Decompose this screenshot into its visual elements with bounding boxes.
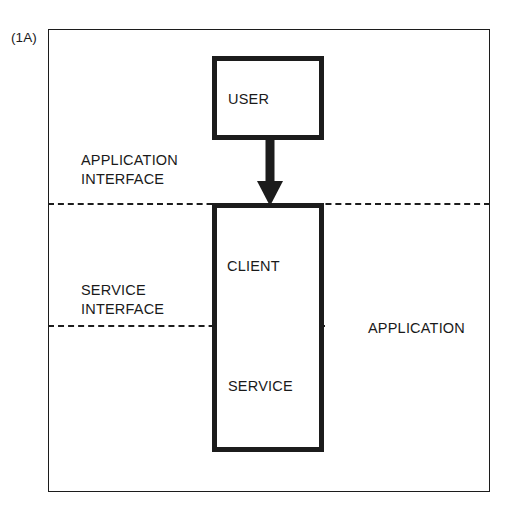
figure-number-label: (1A) [11, 30, 37, 45]
figure-canvas: (1A) USER CLIENT SERVICE APPLICATION INT… [0, 0, 517, 519]
client-box-label: CLIENT [227, 258, 280, 274]
application-interface-label: APPLICATION INTERFACE [81, 151, 178, 188]
application-frame-label: APPLICATION [368, 319, 465, 338]
service-interface-label: SERVICE INTERFACE [81, 281, 164, 318]
service-box-label: SERVICE [228, 378, 293, 394]
user-box-label: USER [228, 91, 269, 107]
client-service-box [212, 203, 324, 452]
user-to-client-arrow-icon [256, 138, 284, 206]
